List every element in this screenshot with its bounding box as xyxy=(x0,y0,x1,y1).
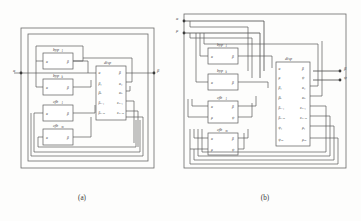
panel-a-output-label: β xyxy=(156,68,160,73)
panel-b-wire-disp-r3 xyxy=(310,41,322,96)
panel-a-block-bypk-sub: k xyxy=(62,75,64,79)
panel-a-wire-byp1-out xyxy=(73,61,88,73)
panel-b-wire-cfb1-out-beta xyxy=(238,96,256,106)
panel-b-block-cfb1-port-beta: β xyxy=(231,105,234,109)
panel-a-wire-bypk-in xyxy=(36,73,43,87)
panel-a-disp-right-port-4: αₖ₊ₘ xyxy=(117,111,124,115)
panel-b-wire-cfbm-in-mu xyxy=(190,129,208,149)
panel-b-block-byp1-port-alpha: α xyxy=(211,55,213,59)
panel-b-block-byp1-port-beta: β xyxy=(231,55,234,59)
panel-b-block-byp1-sub: 1 xyxy=(226,44,228,48)
panel-a-disp-left-port-2: βₖ xyxy=(98,91,103,95)
panel-b-block-cfbm-label: cfb xyxy=(217,127,222,132)
panel-b-wire-bypk-in xyxy=(196,33,208,82)
panel-b-disp-right-port-5: αₖ₊ₘ xyxy=(300,116,307,120)
panel-b-wire-cfbm-in-alpha xyxy=(194,129,208,138)
panel-a-disp-right-port-0: β xyxy=(118,71,121,75)
panel-a-block-bypk-port-alpha: α xyxy=(46,86,48,90)
panel-a-block-bypk-label: byp xyxy=(53,73,59,78)
panel-a-block-byp1-label: byp xyxy=(53,47,59,52)
panel-b-disp-left-port-0: α xyxy=(279,67,281,71)
panel-b-output-label-psi: ψ xyxy=(344,75,347,80)
panel-a-wire-cfb1-out xyxy=(73,105,95,113)
panel-b-block-cfbm-port-mu: μ xyxy=(211,148,213,152)
panel-b-block-cfb1-sub: 1 xyxy=(226,97,228,101)
panel-a-block-disp-label: disp xyxy=(104,60,111,65)
panel-b-block-byp1-label: byp xyxy=(217,42,223,47)
figure-container: α β byp 1 α β byp k α β cfb 1 α β cfb m … xyxy=(0,0,361,221)
panel-b-block-bypk-sub: k xyxy=(226,70,228,74)
panel-b-wire-cfbm-out-psi xyxy=(238,133,244,149)
panel-b-block-bypk-port-beta: β xyxy=(231,81,234,85)
panel-b-block-disp-label: disp xyxy=(285,56,292,61)
panel-b-wire-cfb1-in-mu xyxy=(188,99,208,117)
panel-a-wire-disp-r2 xyxy=(126,86,130,91)
panel-a-wire-cfbm-out xyxy=(73,117,91,137)
panel-a: α β byp 1 α β byp k α β cfb 1 α β cfb m … xyxy=(13,28,160,202)
panel-b-block-cfbm-sub: m xyxy=(226,129,229,133)
panel-a-block-cfb1-label: cfb xyxy=(53,99,58,104)
panel-a-disp-right-port-3: αₖ₊₁ xyxy=(117,101,123,105)
panel-a-block-cfb1-port-beta: β xyxy=(66,112,69,116)
panel-a-disp-left-port-4: βₖ₊ₘ xyxy=(98,111,106,115)
panel-b-block-cfb1-port-mu: μ xyxy=(211,116,213,120)
panel-a-block-cfbm-label: cfb xyxy=(53,123,58,128)
panel-b-block-cfb1-port-alpha: α xyxy=(211,105,213,109)
panel-b-wire-cfbm-out-beta xyxy=(238,129,248,138)
panel-b-wire-cfb1-out-psi xyxy=(238,103,252,117)
panel-b-wire-cfb1-in-alpha xyxy=(192,99,208,106)
panel-a-block-cfbm-sub: m xyxy=(62,125,65,129)
panel-b-input-label-alpha: α xyxy=(176,16,179,21)
panel-a-caption: (a) xyxy=(78,194,87,202)
panel-b-wire-bypk-out xyxy=(238,82,268,88)
panel-b-block-bypk-port-alpha: α xyxy=(211,81,213,85)
panel-a-block-byp1-sub: 1 xyxy=(62,49,64,53)
panel-b-disp-left-port-1: μ xyxy=(279,76,281,80)
panel-a-disp-left-port-0: α xyxy=(99,71,101,75)
panel-b-disp-left-port-3: βₖ xyxy=(278,96,283,100)
panel-a-block-cfbm-port-beta: β xyxy=(66,136,69,140)
panel-b-block-bypk-label: byp xyxy=(217,68,223,73)
panel-b-block-cfbm-port-beta: β xyxy=(231,137,234,141)
panel-b-block-cfb1-label: cfb xyxy=(217,95,222,100)
panel-b-block-cfbm-port-alpha: α xyxy=(211,137,213,141)
panel-b-disp-right-port-4: αₖ₊₁ xyxy=(300,106,306,110)
panel-a-input-node xyxy=(20,72,23,75)
panel-a-block-cfbm-port-alpha: α xyxy=(46,136,48,140)
panel-b-disp-left-port-5: βₖ₊ₘ xyxy=(278,116,286,120)
panel-a-input-label: α xyxy=(13,68,16,73)
panel-a-block-byp1-port-alpha: α xyxy=(46,60,48,64)
panel-b-block-disp[interactable] xyxy=(276,62,310,146)
panel-b-disp-right-port-3: αₖ xyxy=(302,96,306,100)
panel-a-block-byp1-port-beta: β xyxy=(66,60,69,64)
panel-a-block-cfb1-sub: 1 xyxy=(62,101,64,105)
panel-b: α μ β ψ byp 1 α β byp k α β cfb 1 xyxy=(176,14,347,202)
panel-b-input-label-mu: μ xyxy=(176,28,179,33)
panel-b-disp-right-port-0: β xyxy=(301,67,304,71)
panel-b-wire-byp1-out xyxy=(238,56,272,68)
panel-a-block-bypk-port-beta: β xyxy=(66,86,69,90)
panel-a-output-node xyxy=(153,72,156,75)
panel-a-disp-left-port-3: βₖ₊₁ xyxy=(98,101,105,105)
panel-a-disp-right-port-2: αₖ xyxy=(119,91,123,95)
panel-a-block-cfb1-port-alpha: α xyxy=(46,112,48,116)
panel-a-wire-bypk-out xyxy=(73,80,91,87)
panel-b-caption: (b) xyxy=(261,194,270,202)
panel-b-disp-left-port-4: βₖ₊₁ xyxy=(278,106,285,110)
panel-a-wire-disp-r3 xyxy=(126,101,134,143)
